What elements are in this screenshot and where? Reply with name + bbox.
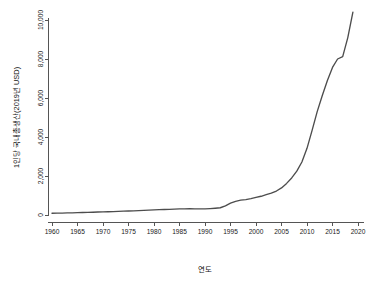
x-axis-tick-label: 2005 <box>274 228 289 235</box>
x-axis-tick-label: 2010 <box>300 228 315 235</box>
x-axis-tick-label: 1960 <box>45 228 60 235</box>
y-axis-tick-label: 6,000 <box>37 89 44 106</box>
x-axis-tick-label: 1985 <box>172 228 187 235</box>
y-axis-tick-label: 8,000 <box>37 50 44 67</box>
x-axis-tick-label: 2015 <box>325 228 340 235</box>
x-axis-tick-label: 2020 <box>351 228 366 235</box>
x-axis-tick-label: 1990 <box>198 228 213 235</box>
x-axis-tick-label: 1980 <box>147 228 162 235</box>
x-axis-tick-label: 1995 <box>223 228 238 235</box>
y-axis-tick-label: 2,000 <box>37 167 44 184</box>
x-axis-tick-label: 1965 <box>70 228 85 235</box>
x-axis-title: 연도 <box>198 265 212 274</box>
y-axis-tick-label: 10,000 <box>37 10 44 31</box>
gdp-per-capita-line-chart: 02,0004,0006,0008,00010,0001960196519701… <box>0 0 373 285</box>
x-axis-tick-label: 1975 <box>121 228 136 235</box>
x-axis-tick-label: 2000 <box>249 228 264 235</box>
chart-plot-area: 02,0004,0006,0008,00010,0001960196519701… <box>0 0 373 285</box>
x-axis-tick-label: 1970 <box>96 228 111 235</box>
y-axis-title: 1인당 국내총생산(2019년 USD) <box>12 67 21 168</box>
data-series-line <box>52 12 353 213</box>
y-axis-tick-label: 4,000 <box>37 128 44 145</box>
y-axis-tick-label: 0 <box>37 213 44 217</box>
